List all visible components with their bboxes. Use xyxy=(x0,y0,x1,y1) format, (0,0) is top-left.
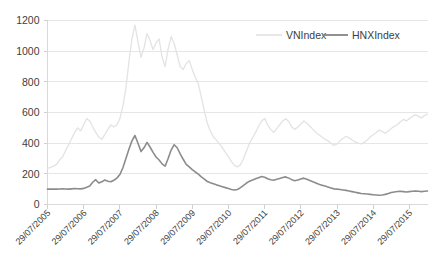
chart-container: 020040060080010001200 29/07/200529/07/20… xyxy=(0,0,432,273)
y-tick-label: 400 xyxy=(22,137,40,149)
y-tick-label: 800 xyxy=(22,76,40,88)
gridlines-group xyxy=(48,21,428,205)
x-tick-label: 29/07/2014 xyxy=(339,208,378,247)
x-tick-label: 29/07/2011 xyxy=(231,208,269,246)
y-tick-label: 200 xyxy=(22,168,40,180)
x-tick-label: 29/07/2015 xyxy=(375,208,414,247)
y-tick-label: 1200 xyxy=(16,14,40,26)
x-tick-label: 29/07/2006 xyxy=(50,208,89,247)
series-line-vnindex xyxy=(48,25,428,168)
data-series-group xyxy=(48,25,428,195)
legend-label-vnindex: VNIndex xyxy=(286,29,327,41)
x-tick-label: 29/07/2012 xyxy=(267,208,306,247)
line-chart: 020040060080010001200 29/07/200529/07/20… xyxy=(0,0,432,273)
x-tick-label: 29/07/2009 xyxy=(158,208,197,247)
chart-legend: VNIndexHNXIndex xyxy=(256,29,401,41)
series-line-hnxindex xyxy=(48,136,428,196)
y-axis-tickmarks xyxy=(44,21,48,205)
x-tick-label: 29/07/2008 xyxy=(122,208,161,247)
x-tick-label: 29/07/2007 xyxy=(86,208,125,247)
y-tick-label: 600 xyxy=(22,106,40,118)
x-axis-tick-labels: 29/07/200529/07/200629/07/200729/07/2008… xyxy=(13,208,414,247)
y-tick-label: 0 xyxy=(34,198,40,210)
y-tick-label: 1000 xyxy=(16,45,40,57)
legend-label-hnxindex: HNXIndex xyxy=(352,29,401,41)
y-axis-tick-labels: 020040060080010001200 xyxy=(16,14,40,210)
x-tick-label: 29/07/2013 xyxy=(303,208,342,247)
x-tick-label: 29/07/2010 xyxy=(194,208,233,247)
x-tick-label: 29/07/2005 xyxy=(13,208,52,247)
x-axis-tickmarks xyxy=(48,205,410,209)
